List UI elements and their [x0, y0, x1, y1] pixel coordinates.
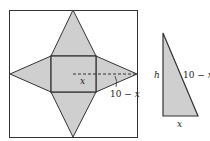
label-base-x: x [177, 119, 182, 129]
label-x-net: x [80, 76, 85, 86]
pyramid-net-diagram: x 10 − x h 10 − x x [0, 0, 210, 141]
label-h: h [154, 70, 160, 80]
label-hypotenuse: 10 − x [183, 70, 210, 80]
label-slant-net: 10 − x [110, 89, 140, 99]
